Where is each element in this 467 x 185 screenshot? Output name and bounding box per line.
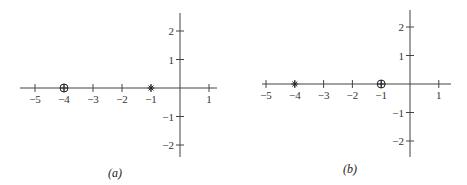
x-tick-label: −4 <box>289 89 301 101</box>
zero-marker-icon <box>60 84 68 92</box>
y-tick-label: 2 <box>399 21 405 33</box>
x-tick-label: 1 <box>436 89 442 101</box>
x-tick-label: −3 <box>87 93 99 105</box>
y-tick-label: −1 <box>162 111 174 123</box>
x-tick-label: −5 <box>260 89 272 101</box>
x-tick-label: −4 <box>58 93 70 105</box>
x-tick-label: −5 <box>29 93 41 105</box>
panel-caption: (a) <box>108 166 122 180</box>
y-tick-label: −2 <box>162 139 174 151</box>
y-tick-label: 1 <box>399 50 405 62</box>
x-tick-label: 1 <box>206 93 212 105</box>
y-tick-label: 1 <box>169 54 175 66</box>
y-tick-label: −1 <box>392 107 404 119</box>
y-tick-label: 2 <box>169 25 175 37</box>
x-tick-label: −1 <box>375 89 387 101</box>
x-tick-label: −3 <box>318 89 330 101</box>
y-tick-label: −2 <box>392 135 404 147</box>
pole-marker-icon <box>291 81 298 88</box>
x-tick-label: −2 <box>347 89 359 101</box>
panel-a: −5−4−3−2−1121−1−2(a) <box>20 13 217 180</box>
panel-b: −5−4−3−2−1121−1−2(b) <box>260 10 451 176</box>
x-tick-label: −1 <box>145 93 157 105</box>
pole-marker-icon <box>148 85 155 92</box>
zero-marker-icon <box>377 80 385 88</box>
pole-zero-figure: −5−4−3−2−1121−1−2(a) −5−4−3−2−1121−1−2(b… <box>0 0 467 185</box>
x-tick-label: −2 <box>116 93 128 105</box>
panel-caption: (b) <box>343 162 357 176</box>
